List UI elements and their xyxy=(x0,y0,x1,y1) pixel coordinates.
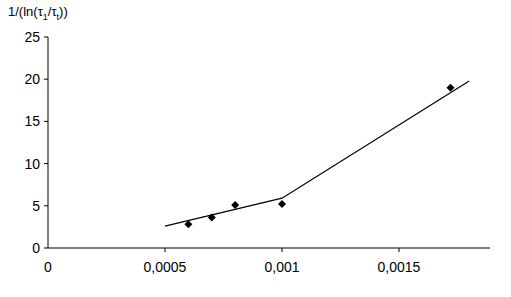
axes xyxy=(48,37,490,248)
x-axis-ticks: 00,00050,0010,0015 xyxy=(44,248,421,275)
y-tick-label: 5 xyxy=(32,198,40,214)
x-tick-label: 0,0005 xyxy=(144,259,187,275)
data-series xyxy=(165,81,469,228)
fit-line xyxy=(165,81,469,226)
y-tick-label: 20 xyxy=(24,71,40,87)
x-tick-label: 0 xyxy=(44,259,52,275)
x-tick-label: 0,001 xyxy=(264,259,299,275)
y-axis-ticks: 0510152025 xyxy=(24,29,48,256)
y-tick-label: 10 xyxy=(24,156,40,172)
y-tick-label: 15 xyxy=(24,113,40,129)
data-point-diamond xyxy=(278,200,286,208)
data-point-diamond xyxy=(231,201,239,209)
chart-plot: 0510152025 00,00050,0010,0015 xyxy=(0,0,511,297)
y-tick-label: 0 xyxy=(32,240,40,256)
y-tick-label: 25 xyxy=(24,29,40,45)
x-tick-label: 0,0015 xyxy=(378,259,421,275)
